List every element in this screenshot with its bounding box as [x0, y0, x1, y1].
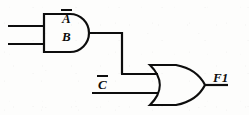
signal-label-b: B — [62, 30, 71, 43]
signal-label-c-text: C — [98, 78, 107, 91]
signal-label-b-text: B — [62, 30, 71, 43]
or-gate-body — [150, 65, 205, 105]
signal-label-a: A — [62, 12, 71, 25]
signal-label-c: C — [98, 78, 107, 91]
circuit-schematic — [0, 0, 249, 115]
signal-label-a-text: A — [62, 12, 71, 25]
signal-label-f1-text: F1 — [213, 71, 228, 84]
signal-label-f1: F1 — [213, 71, 228, 84]
logic-diagram-canvas: A B C F1 — [0, 0, 249, 115]
circuit-wires-and-gates — [8, 14, 228, 105]
